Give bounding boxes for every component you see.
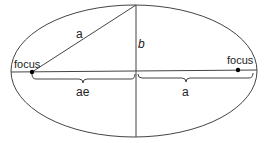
semi-minor-label: b bbox=[138, 37, 145, 51]
semi-major-label: a bbox=[182, 85, 189, 99]
left-focus-dot bbox=[30, 70, 34, 74]
brace-a bbox=[138, 73, 253, 82]
ellipse-diagram: focus focus a b ae a bbox=[0, 0, 275, 143]
right-focus-label: focus bbox=[227, 54, 254, 66]
right-focus-dot bbox=[236, 68, 240, 72]
focus-to-vertex-line bbox=[32, 5, 136, 72]
hypotenuse-label: a bbox=[76, 27, 83, 41]
left-focus-label: focus bbox=[14, 58, 41, 70]
major-axis bbox=[11, 70, 257, 72]
focal-distance-label: ae bbox=[76, 85, 90, 99]
brace-ae bbox=[32, 74, 135, 83]
